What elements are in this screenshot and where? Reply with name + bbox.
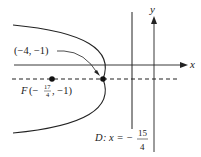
y-axis-label: y xyxy=(149,3,155,15)
vertex-label: (−4, −1) xyxy=(14,45,49,57)
x-axis-label: x xyxy=(189,58,195,70)
y-axis-arrow-icon xyxy=(151,16,157,24)
x-axis xyxy=(14,62,188,68)
x-axis-arrow-icon xyxy=(180,62,188,68)
y-axis xyxy=(151,16,157,152)
vertex-point xyxy=(100,76,106,82)
svg-text:: x = −: : x = − xyxy=(103,132,133,143)
svg-text:17: 17 xyxy=(44,83,51,90)
focus-point xyxy=(49,76,55,82)
directrix-label: D : x = − 15 4 xyxy=(94,128,148,152)
svg-text:, −1): , −1) xyxy=(52,85,72,97)
svg-text:(−: (− xyxy=(29,85,38,97)
parabola-diagram: x y (−4, −1) F (− 17 4 , −1) D : x = − 1… xyxy=(0,0,201,157)
svg-text:F: F xyxy=(20,85,28,96)
vertex-leader-line xyxy=(57,51,98,74)
focus-label: F (− 17 4 , −1) xyxy=(20,83,72,98)
svg-text:D: D xyxy=(94,132,103,143)
svg-text:4: 4 xyxy=(46,91,50,98)
svg-text:15: 15 xyxy=(138,128,148,138)
leader-arrow-icon xyxy=(94,70,100,76)
svg-text:4: 4 xyxy=(140,142,145,152)
